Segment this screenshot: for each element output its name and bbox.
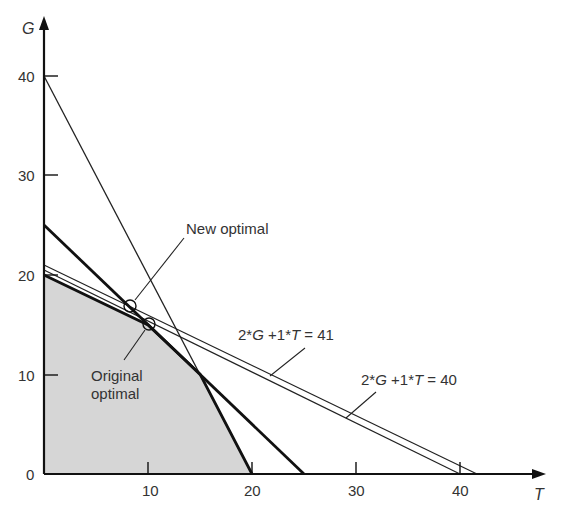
y-tick-label-0: 0	[26, 466, 34, 483]
new-optimal-label: New optimal	[186, 220, 269, 237]
eq40-mid: +1*	[387, 371, 414, 388]
x-tick-label-20: 20	[244, 482, 261, 499]
original-optimal-label-line1: Original	[91, 367, 143, 384]
eq40-suffix: = 40	[423, 371, 457, 388]
y-tick-label-40: 40	[18, 68, 35, 85]
eq40-leader	[346, 392, 376, 418]
eq41-prefix: 2*	[238, 326, 252, 343]
y-tick-label-20: 20	[18, 267, 35, 284]
eq41-g: G	[252, 326, 264, 343]
y-axis-arrow-icon	[39, 16, 49, 30]
x-tick-label-10: 10	[142, 482, 159, 499]
y-tick-label-30: 30	[18, 167, 35, 184]
x-tick-label-40: 40	[452, 482, 469, 499]
equation-41-label: 2*G +1*T = 41	[238, 326, 334, 343]
x-tick-label-30: 30	[348, 482, 365, 499]
feasible-region	[44, 275, 252, 474]
eq41-leader	[270, 348, 305, 376]
x-axis-title: T	[534, 486, 545, 503]
new-optimal-leader	[135, 238, 184, 300]
original-optimal-label-line2: optimal	[91, 385, 139, 402]
eq41-mid: +1*	[264, 326, 291, 343]
y-tick-label-10: 10	[18, 367, 35, 384]
eq41-suffix: = 41	[300, 326, 334, 343]
y-axis-title: G	[22, 20, 34, 37]
eq40-g: G	[375, 371, 387, 388]
equation-40-label: 2*G +1*T = 40	[361, 371, 457, 388]
eq40-prefix: 2*	[361, 371, 375, 388]
x-axis-arrow-icon	[532, 469, 546, 479]
lp-graph: 0 10 20 30 40 10 20 30 40 G T New optima…	[0, 0, 564, 521]
